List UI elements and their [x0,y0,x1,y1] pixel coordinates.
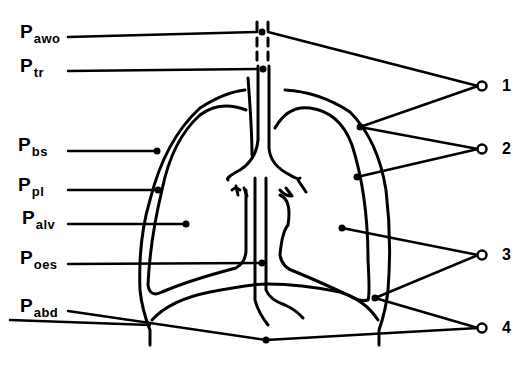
node-label-3: 3 [502,247,511,263]
label-subscript: oes [34,257,58,272]
label-main: P [20,21,33,42]
leader-lines [10,32,478,340]
label-subscript: bs [32,144,48,159]
label-subscript: pl [32,184,45,199]
respiratory-pressure-diagram: Pawo Ptr Pbs Ppl Palv Poes Pabd 1 2 3 4 [0,0,532,371]
label-main: P [18,174,31,195]
label-p-oes: Poes [20,248,58,269]
label-main: P [20,247,33,268]
label-subscript: abd [34,305,59,320]
node-label-4: 4 [502,320,511,336]
label-main: P [20,55,33,76]
node-circles [478,82,487,333]
oesophagus-tube [248,78,252,155]
label-p-awo: Pawo [20,22,60,43]
node-label-1: 1 [502,78,511,94]
right-lung-outline [275,108,369,301]
label-subscript: awo [34,31,61,46]
label-subscript: tr [34,65,44,80]
lung-schematic-drawing [0,0,532,371]
label-p-alv: Palv [22,208,55,229]
airway-opening-tube [257,22,268,60]
label-subscript: alv [36,217,56,232]
node-label-2: 2 [502,141,511,157]
label-p-bs: Pbs [18,135,48,156]
label-main: P [22,207,35,228]
label-main: P [20,295,33,316]
label-main: P [18,134,31,155]
trachea [228,66,301,180]
label-p-pl: Ppl [18,175,44,196]
left-lung-outline [148,106,246,294]
label-p-abd: Pabd [20,296,58,317]
label-p-tr: Ptr [20,56,44,77]
